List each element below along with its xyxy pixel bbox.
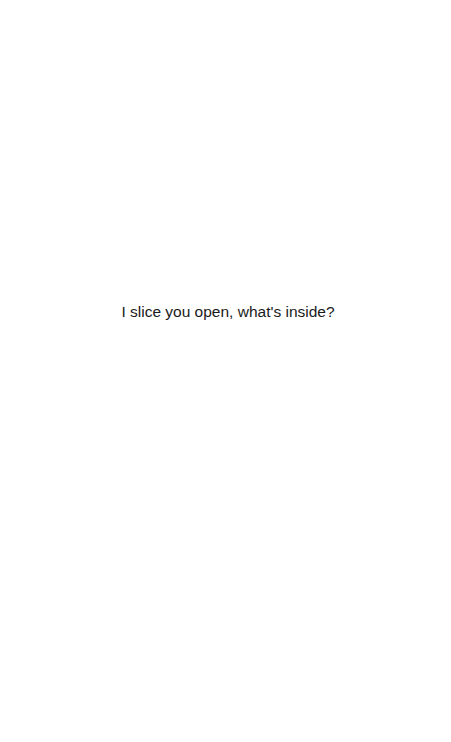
page-canvas: I slice you open, what's inside? — [0, 0, 451, 742]
caption-text: I slice you open, what's inside? — [0, 302, 451, 322]
